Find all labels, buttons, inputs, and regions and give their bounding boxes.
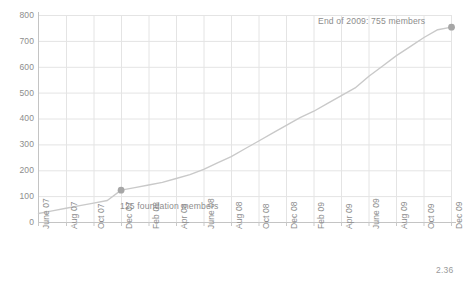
x-tick-oct-08: Oct 08 (262, 203, 271, 229)
x-tick-dec-09: Dec 09 (455, 201, 464, 229)
x-tick-june-07: June 07 (42, 198, 51, 229)
x-tick-oct-07: Oct 07 (97, 203, 106, 229)
x-tick-aug-07: Aug 07 (70, 201, 79, 229)
x-tick-dec-08: Dec 08 (290, 201, 299, 229)
membership-growth-chart: 800 700 600 500 400 300 200 100 0 June 0… (0, 0, 464, 283)
x-tick-aug-08: Aug 08 (235, 201, 244, 229)
version-label: 2.36 (436, 266, 453, 275)
x-tick-apr-09: Apr 09 (345, 203, 354, 229)
annotation-end-of-2009: End of 2009: 755 members (318, 16, 425, 26)
x-axis-labels: June 07Aug 07Oct 07Dec 07Feb 08Apr 08Jun… (0, 0, 464, 283)
x-tick-june-09: June 09 (372, 198, 381, 229)
annotation-foundation-members: 125 foundation members (120, 201, 218, 211)
x-tick-feb-09: Feb 09 (317, 202, 326, 229)
x-tick-oct-09: Oct 09 (427, 203, 436, 229)
x-tick-aug-09: Aug 09 (400, 201, 409, 229)
